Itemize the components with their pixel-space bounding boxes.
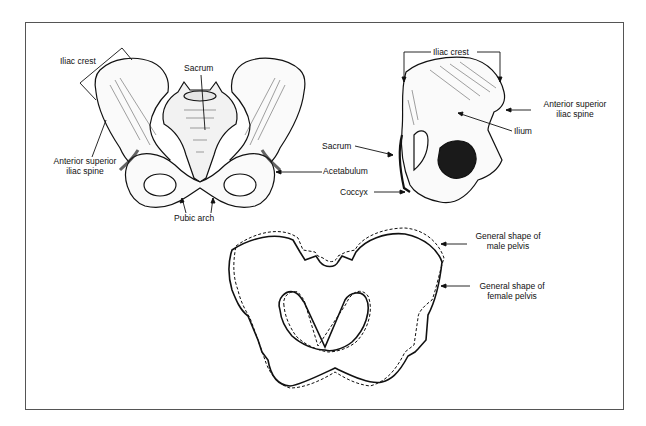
label-iliac-crest-side: Iliac crest: [433, 47, 469, 57]
shape-leader-lines: [441, 242, 470, 288]
label-female-shape-line2: female pelvis: [472, 291, 552, 301]
label-male-shape-line1: General shape of: [468, 231, 548, 241]
label-acetabulum: Acetabulum: [323, 166, 368, 176]
label-asis-front-line1: Anterior superior: [42, 156, 128, 166]
label-female-shape-line1: General shape of: [472, 281, 552, 291]
label-asis-side-line1: Anterior superior: [530, 99, 620, 109]
label-asis-side-line2: iliac spine: [530, 109, 620, 119]
male-pelvis-outline: [229, 234, 442, 386]
label-sacrum-side: Sacrum: [322, 141, 351, 151]
label-iliac-crest-front: Iliac crest: [60, 56, 96, 66]
label-male-shape-line2: male pelvis: [468, 241, 548, 251]
lateral-hipbone-drawing: [400, 57, 505, 202]
label-sacrum-front: Sacrum: [184, 63, 213, 73]
pelvis-illustrations: [0, 0, 646, 426]
label-ilium: Ilium: [514, 126, 532, 136]
label-coccyx: Coccyx: [340, 187, 368, 197]
label-asis-front-line2: iliac spine: [42, 166, 128, 176]
label-pubic-arch: Pubic arch: [174, 213, 214, 223]
female-pelvis-outline: [234, 228, 444, 388]
